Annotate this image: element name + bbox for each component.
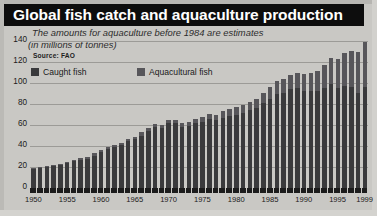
- bar-segment-caught: [268, 99, 273, 188]
- stacked-bar: [146, 128, 151, 188]
- stacked-bar: [126, 139, 131, 188]
- stacked-bar: [187, 122, 192, 188]
- stacked-bar: [106, 147, 111, 188]
- bar-segment-aquaculture: [234, 107, 239, 114]
- stacked-bar: [180, 123, 185, 188]
- bar-column: [165, 36, 172, 188]
- axis-tick-dash: [247, 188, 254, 193]
- stacked-bar: [214, 115, 219, 188]
- axis-tick-dash: [77, 188, 84, 193]
- bar-segment-aquaculture: [275, 81, 280, 94]
- bar-column: [260, 36, 267, 188]
- y-axis-tick-label: 40: [18, 140, 27, 149]
- x-axis-tick-label: 1960: [93, 195, 110, 204]
- bar-segment-caught: [187, 126, 192, 188]
- bar-column: [233, 36, 240, 188]
- bar-column: [267, 36, 274, 188]
- y-axis-tick-label: 0: [22, 182, 27, 191]
- bar-column: [179, 36, 186, 188]
- bar-segment-caught: [288, 89, 293, 188]
- bar-column: [152, 36, 159, 188]
- stacked-bar: [234, 107, 239, 188]
- bar-segment-caught: [65, 163, 70, 188]
- axis-tick-dash: [64, 188, 71, 193]
- stacked-bar: [261, 93, 266, 188]
- axis-tick-dash: [267, 188, 274, 193]
- axis-tick-dash: [348, 188, 355, 193]
- bar-segment-aquaculture: [295, 73, 300, 89]
- bar-column: [362, 36, 369, 188]
- x-axis-tick-label: 1955: [59, 195, 76, 204]
- bar-column: [206, 36, 213, 188]
- axis-tick-dash: [50, 188, 57, 193]
- bar-column: [159, 36, 166, 188]
- bar-segment-caught: [119, 145, 124, 188]
- axis-tick-dash: [152, 188, 159, 193]
- bar-column: [307, 36, 314, 188]
- bar-segment-aquaculture: [302, 74, 307, 91]
- x-axis-tick-label: 1985: [262, 195, 279, 204]
- stacked-bar: [329, 58, 334, 188]
- stacked-bar: [363, 42, 368, 188]
- axis-tick-dash: [314, 188, 321, 193]
- axis-tick-dash: [111, 188, 118, 193]
- axis-tick-dash: [206, 188, 213, 193]
- bar-segment-caught: [329, 84, 334, 188]
- bar-segment-caught: [139, 136, 144, 188]
- bar-column: [125, 36, 132, 188]
- axis-tick-dash: [253, 188, 260, 193]
- stacked-bar: [92, 153, 97, 188]
- bar-segment-caught: [363, 87, 368, 188]
- bar-segment-caught: [275, 94, 280, 188]
- axis-tick-dash: [57, 188, 64, 193]
- axis-tick-dash: [226, 188, 233, 193]
- stacked-bar: [160, 125, 165, 188]
- frame-edge-left: [0, 0, 4, 216]
- bar-column: [138, 36, 145, 188]
- axis-tick-dash: [287, 188, 294, 193]
- stacked-bar: [193, 119, 198, 188]
- bar-segment-caught: [241, 113, 246, 188]
- x-axis-tick-label: 1990: [295, 195, 312, 204]
- bar-segment-caught: [207, 119, 212, 188]
- axis-tick-dash: [165, 188, 172, 193]
- bar-column: [341, 36, 348, 188]
- bar-segment-caught: [153, 127, 158, 188]
- x-axis-tick-label: 1970: [160, 195, 177, 204]
- bar-segment-caught: [112, 147, 117, 188]
- bar-column: [91, 36, 98, 188]
- bar-column: [57, 36, 64, 188]
- axis-tick-dash: [274, 188, 281, 193]
- bar-segment-aquaculture: [309, 73, 314, 91]
- axis-tick-dash: [37, 188, 44, 193]
- bar-column: [192, 36, 199, 188]
- stacked-bar: [275, 81, 280, 188]
- bar-segment-caught: [302, 91, 307, 188]
- axis-tick-dash: [355, 188, 362, 193]
- bar-segment-caught: [254, 108, 259, 188]
- bar-segment-caught: [200, 122, 205, 188]
- axis-tick-dash: [307, 188, 314, 193]
- stacked-bar: [166, 120, 171, 188]
- bar-segment-aquaculture: [315, 71, 320, 91]
- y-axis-tick-label: 100: [13, 77, 27, 86]
- bar-segment-caught: [214, 120, 219, 188]
- stacked-bar: [78, 158, 83, 188]
- x-axis-labels: 1950195519601965197019751980198519901995…: [30, 195, 368, 207]
- stacked-bar: [99, 150, 104, 188]
- axis-tick-dash: [71, 188, 78, 193]
- bar-segment-aquaculture: [363, 42, 368, 87]
- stacked-bar: [322, 65, 327, 188]
- axis-tick-dash: [301, 188, 308, 193]
- stacked-bar: [58, 164, 63, 188]
- bar-segment-caught: [31, 169, 36, 188]
- axis-tick-dash: [328, 188, 335, 193]
- stacked-bar: [227, 109, 232, 188]
- axis-tick-dash: [240, 188, 247, 193]
- bar-segment-caught: [166, 123, 171, 188]
- bar-column: [64, 36, 71, 188]
- bar-segment-aquaculture: [342, 53, 347, 87]
- bar-column: [294, 36, 301, 188]
- stacked-bar: [241, 105, 246, 188]
- stacked-bar: [342, 53, 347, 188]
